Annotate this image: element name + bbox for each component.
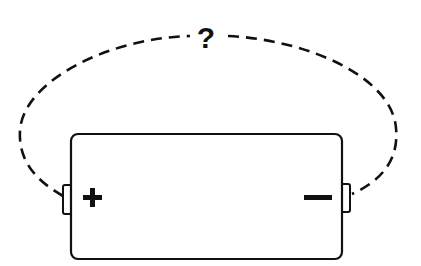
unknown-connection-label: ?: [192, 22, 220, 54]
battery-body: [71, 134, 342, 259]
minus-sign-icon: [304, 195, 332, 200]
